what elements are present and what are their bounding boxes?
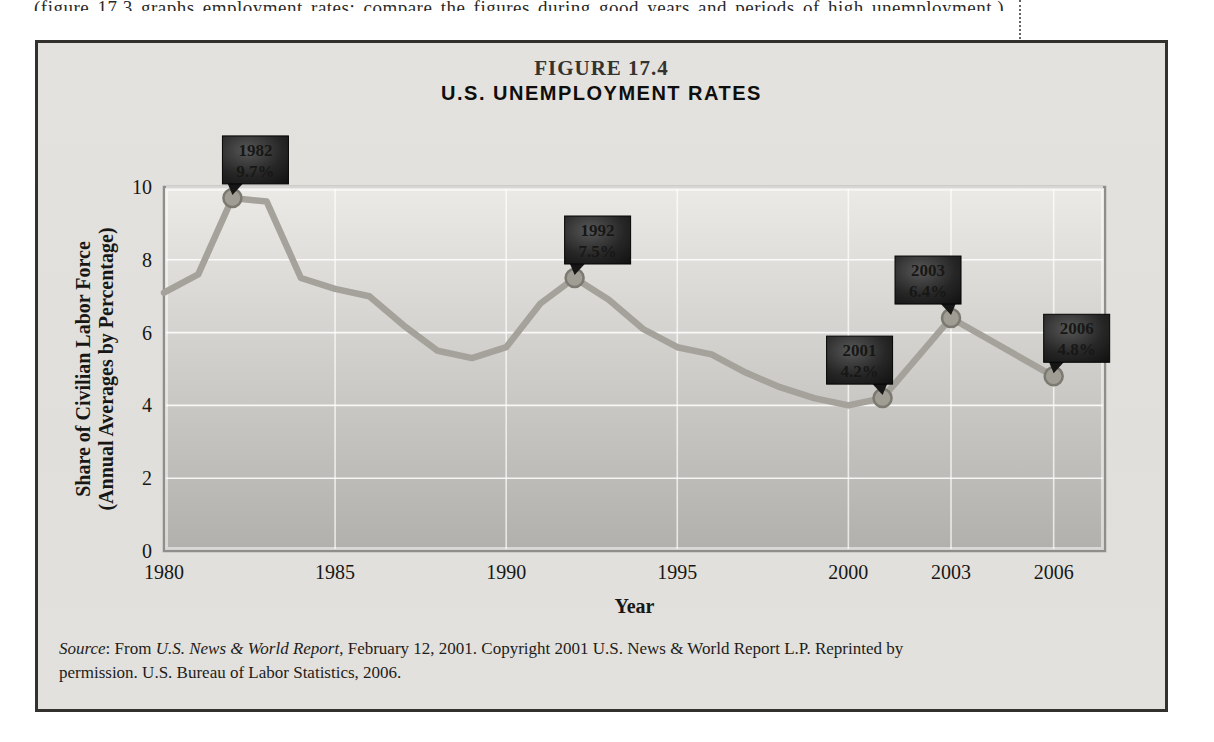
figure-number-label: FIGURE 17.4 bbox=[38, 56, 1165, 81]
x-tick-label: 1985 bbox=[315, 561, 355, 583]
x-axis-title: Year bbox=[615, 595, 655, 617]
y-tick-label: 4 bbox=[142, 394, 152, 416]
y-tick-label: 2 bbox=[142, 467, 152, 489]
cropped-text-line: (figure 17.3 graphs employment rates; co… bbox=[34, 0, 1094, 11]
source-line-2: permission. U.S. Bureau of Labor Statist… bbox=[59, 661, 1129, 685]
dotted-margin-line bbox=[1019, 0, 1021, 43]
y-tick-label: 8 bbox=[142, 249, 152, 271]
y-tick-label: 10 bbox=[132, 176, 152, 198]
source-line-1: Source: From U.S. News & World Report, F… bbox=[59, 637, 1129, 661]
source-credit: Source: From U.S. News & World Report, F… bbox=[59, 637, 1129, 685]
y-tick-label: 6 bbox=[142, 322, 152, 344]
figure-title: U.S. UNEMPLOYMENT RATES bbox=[38, 82, 1165, 105]
document-page: (figure 17.3 graphs employment rates; co… bbox=[0, 0, 1214, 742]
callout-year: 1992 bbox=[581, 221, 615, 240]
callout-year: 2003 bbox=[911, 261, 945, 280]
callout-value: 4.2% bbox=[840, 362, 878, 381]
y-tick-label: 0 bbox=[142, 540, 152, 562]
callout-value: 9.7% bbox=[236, 162, 274, 181]
callout-year: 2006 bbox=[1060, 319, 1094, 338]
x-tick-label: 2003 bbox=[931, 561, 971, 583]
callout-value: 6.4% bbox=[909, 282, 947, 301]
callout-value: 7.5% bbox=[578, 242, 616, 261]
figure-panel: 1982 9.7% 1992 7.5% 2001 4.2% 2003 6.4% … bbox=[35, 40, 1168, 712]
y-axis-title: Share of Civilian Labor Force (Annual Av… bbox=[72, 227, 118, 510]
x-tick-label: 2000 bbox=[828, 561, 868, 583]
callout-year: 2001 bbox=[843, 341, 877, 360]
svg-text:(Annual Averages by Percentage: (Annual Averages by Percentage) bbox=[95, 227, 118, 510]
x-tick-label: 2006 bbox=[1034, 561, 1074, 583]
plot-area bbox=[164, 187, 1105, 551]
unemployment-line-chart: 1982 9.7% 1992 7.5% 2001 4.2% 2003 6.4% … bbox=[38, 43, 1165, 709]
x-tick-label: 1995 bbox=[657, 561, 697, 583]
x-tick-label: 1980 bbox=[144, 561, 184, 583]
x-tick-label: 1990 bbox=[486, 561, 526, 583]
callout-value: 4.8% bbox=[1058, 340, 1096, 359]
cropped-text-fragments: (figure 17.3 graphs employment rates; co… bbox=[34, 0, 1004, 11]
svg-text:Share of Civilian Labor Force: Share of Civilian Labor Force bbox=[72, 241, 94, 497]
callout-year: 1982 bbox=[238, 141, 272, 160]
